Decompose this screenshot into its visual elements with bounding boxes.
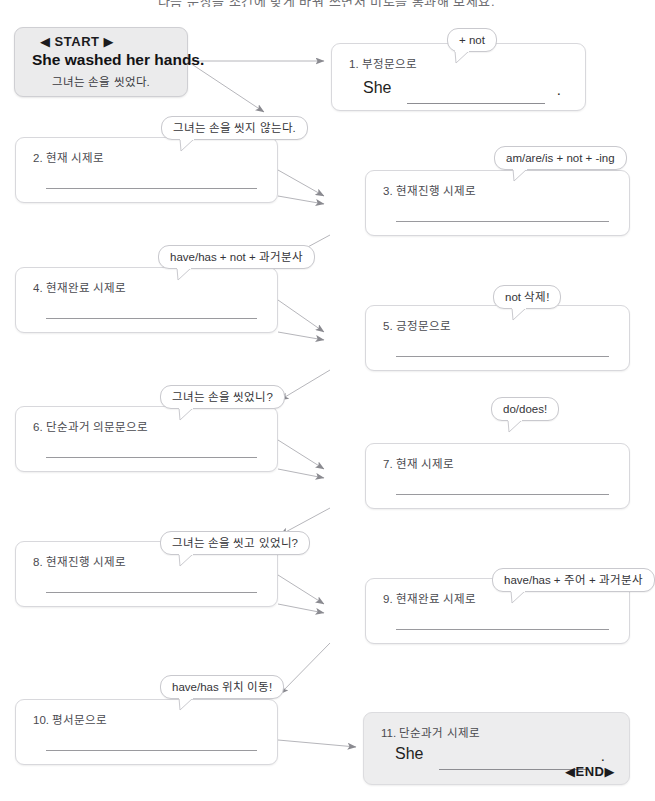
node-3-label: 3. 현재진행 시제로 xyxy=(383,182,476,198)
node-3-answer-row xyxy=(396,202,609,222)
callout-tail-icon xyxy=(513,169,527,182)
callout-tail-icon xyxy=(512,308,526,321)
callout-tail-icon xyxy=(511,591,525,604)
node-9-answer-row xyxy=(396,610,609,630)
callout-plus-not-text: + not xyxy=(459,34,485,46)
callout-negative-ko: 그녀는 손을 씻지 않는다. xyxy=(161,116,308,140)
callout-past-progressive-question-ko: 그녀는 손을 씻고 있었니? xyxy=(160,531,310,555)
node-4[interactable]: 4. 현재완료 시제로 xyxy=(15,267,278,333)
callout-move-have-has-text: have/has 위치 이동! xyxy=(172,681,272,693)
callout-progressive-form: am/are/is + not + -ing xyxy=(494,146,627,170)
callout-past-question-ko-text: 그녀는 손을 씻었니? xyxy=(172,391,273,403)
callout-tail-icon xyxy=(455,51,469,64)
node-1-prompt: She . xyxy=(363,77,567,105)
callout-tail-icon xyxy=(177,268,191,281)
node-9-label: 9. 현재완료 시제로 xyxy=(383,590,476,606)
node-7-answer-blank[interactable] xyxy=(396,494,609,495)
node-5-answer-blank[interactable] xyxy=(396,356,609,357)
node-9-answer-blank[interactable] xyxy=(396,629,609,630)
callout-perfect-negative-form: have/has + not + 과거분사 xyxy=(158,245,315,269)
start-marker: ◀ START ▶ xyxy=(40,34,114,49)
node-10-answer-row xyxy=(46,731,257,751)
node-8-answer-blank[interactable] xyxy=(46,592,257,593)
callout-perfect-question-form: have/has + 주어 + 과거분사 xyxy=(492,568,655,592)
node-5[interactable]: 5. 긍정문으로 xyxy=(365,305,630,371)
callout-tail-icon xyxy=(508,420,522,433)
callout-do-does-text: do/does! xyxy=(503,403,547,415)
node-11-period: . xyxy=(601,747,605,764)
node-11-label: 11. 단순과거 시제로 xyxy=(381,724,480,740)
callout-move-have-has: have/has 위치 이동! xyxy=(160,675,284,699)
node-2[interactable]: 2. 현재 시제로 xyxy=(15,137,278,203)
node-10-answer-blank[interactable] xyxy=(46,750,257,751)
node-11-subject: She xyxy=(395,745,423,763)
node-1-answer-blank[interactable] xyxy=(407,103,545,104)
node-7-label: 7. 현재 시제로 xyxy=(383,455,454,471)
callout-tail-icon xyxy=(180,139,194,152)
callout-past-progressive-question-ko-text: 그녀는 손을 씻고 있었니? xyxy=(172,537,298,549)
node-6-label: 6. 단순과거 의문문으로 xyxy=(33,418,148,434)
node-4-answer-blank[interactable] xyxy=(46,318,257,319)
node-2-answer-row xyxy=(46,169,257,189)
node-7-answer-row xyxy=(396,475,609,495)
callout-delete-not-text: not 삭제! xyxy=(505,291,549,303)
callout-delete-not: not 삭제! xyxy=(493,285,561,309)
callout-tail-icon xyxy=(179,408,193,421)
callout-tail-icon xyxy=(179,698,193,711)
node-2-label: 2. 현재 시제로 xyxy=(33,149,104,165)
callout-negative-ko-text: 그녀는 손을 씻지 않는다. xyxy=(173,122,296,134)
end-marker: ◀END▶ xyxy=(565,764,615,779)
callout-past-question-ko: 그녀는 손을 씻었니? xyxy=(160,385,285,409)
node-6[interactable]: 6. 단순과거 의문문으로 xyxy=(15,406,278,472)
callout-perfect-question-form-text: have/has + 주어 + 과거분사 xyxy=(504,574,643,586)
node-4-label: 4. 현재완료 시제로 xyxy=(33,279,126,295)
callout-progressive-form-text: am/are/is + not + -ing xyxy=(506,152,615,164)
node-2-answer-blank[interactable] xyxy=(46,188,257,189)
start-node: ◀ START ▶ She washed her hands. 그녀는 손을 씻… xyxy=(14,27,188,97)
node-5-answer-row xyxy=(396,337,609,357)
node-5-label: 5. 긍정문으로 xyxy=(383,317,451,333)
node-3-answer-blank[interactable] xyxy=(396,221,609,222)
node-10-label: 10. 평서문으로 xyxy=(33,711,107,727)
node-4-answer-row xyxy=(46,299,257,319)
callout-perfect-negative-form-text: have/has + not + 과거분사 xyxy=(170,251,303,263)
node-8-label: 8. 현재진행 시제로 xyxy=(33,553,126,569)
node-1-label: 1. 부정문으로 xyxy=(349,55,417,71)
callout-do-does: do/does! xyxy=(491,397,559,421)
node-1-subject: She xyxy=(363,79,391,97)
node-8-answer-row xyxy=(46,573,257,593)
callout-tail-icon xyxy=(179,554,193,567)
start-sentence-en: She washed her hands. xyxy=(32,51,204,69)
node-6-answer-row xyxy=(46,438,257,458)
node-7[interactable]: 7. 현재 시제로 xyxy=(365,443,630,509)
node-11[interactable]: 11. 단순과거 시제로 She . ◀END▶ xyxy=(363,712,630,785)
start-sentence-ko: 그녀는 손을 씻었다. xyxy=(15,73,187,89)
callout-plus-not: + not xyxy=(447,28,497,52)
node-3[interactable]: 3. 현재진행 시제로 xyxy=(365,170,630,236)
node-1-period: . xyxy=(557,81,561,98)
node-10[interactable]: 10. 평서문으로 xyxy=(15,699,278,765)
node-6-answer-blank[interactable] xyxy=(46,457,257,458)
